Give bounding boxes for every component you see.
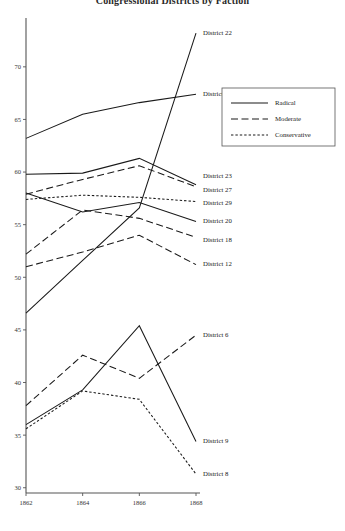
x-tick-label: 1862 — [20, 499, 33, 506]
x-tick-label: 1864 — [76, 499, 90, 506]
legend-label-radical: Radical — [275, 99, 296, 106]
series-label-district-29: District 29 — [203, 199, 232, 206]
y-tick-label: 35 — [15, 432, 22, 439]
y-tick-label: 65 — [15, 116, 22, 123]
series-label-district-22: District 22 — [203, 29, 232, 36]
series-label-district-27: District 27 — [203, 186, 232, 193]
series-line-district-6 — [26, 335, 196, 406]
series-line-district-23 — [26, 158, 196, 184]
y-tick-label: 45 — [15, 326, 22, 333]
y-tick-label: 55 — [15, 221, 22, 228]
series-line-district-20 — [26, 193, 196, 221]
x-tick-label: 1866 — [133, 499, 147, 506]
series-line-district-12 — [26, 235, 196, 267]
series-label-district-9: District 9 — [203, 437, 229, 444]
chart-canvas: 3035404550556065701862186418661868Distri… — [0, 0, 345, 531]
y-tick-label: 40 — [15, 379, 22, 386]
series-label-district-20: District 20 — [203, 217, 232, 224]
series-line-district-27 — [26, 166, 196, 194]
y-tick-label: 60 — [15, 168, 22, 175]
series-line-district-29 — [26, 195, 196, 201]
y-tick-label: 30 — [15, 484, 22, 491]
series-line-district-18 — [26, 210, 196, 254]
y-tick-label: 70 — [15, 63, 22, 70]
y-tick-label: 50 — [15, 274, 22, 281]
legend-label-conservative: Conservative — [275, 131, 311, 138]
series-label-district-6: District 6 — [203, 331, 229, 338]
series-label-district-23: District 23 — [203, 172, 232, 179]
series-label-district-12: District 12 — [203, 260, 232, 267]
series-line-district-31 — [26, 94, 196, 138]
legend-label-moderate: Moderate — [275, 115, 301, 122]
series-label-district-18: District 18 — [203, 236, 232, 243]
line-chart: Congressional Districts by Faction 30354… — [0, 0, 345, 531]
series-line-district-8 — [26, 391, 196, 474]
x-tick-label: 1868 — [190, 499, 203, 506]
series-label-district-8: District 8 — [203, 470, 229, 477]
